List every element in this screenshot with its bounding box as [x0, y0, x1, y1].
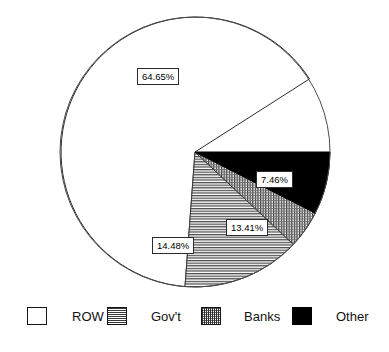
- legend-swatch-banks-icon: [201, 307, 221, 325]
- slice-value-label-row: 64.65%: [137, 68, 179, 85]
- chart-plot-area: 64.65% 7.46% 13.41% 14.48%: [0, 0, 389, 300]
- legend-entry-banks: Banks: [201, 303, 280, 329]
- legend-label-other: Other: [336, 309, 369, 324]
- legend-entry-other: Other: [292, 303, 369, 329]
- pie-svg: [0, 0, 389, 300]
- legend-label-govt: Gov't: [151, 309, 181, 324]
- slice-value-label-govt: 14.48%: [152, 237, 194, 254]
- legend-label-banks: Banks: [244, 309, 280, 324]
- chart-legend: ROW Gov't Banks Other: [0, 303, 389, 337]
- legend-label-row: ROW: [72, 309, 104, 324]
- legend-entry-row: ROW: [27, 303, 104, 329]
- legend-swatch-govt-icon: [107, 307, 127, 325]
- legend-swatch-other-icon: [292, 307, 312, 325]
- pie-chart-figure: pp: [0, 0, 389, 352]
- legend-swatch-row-icon: [27, 307, 47, 325]
- legend-entry-govt: Gov't: [107, 303, 181, 329]
- slice-value-label-banks: 13.41%: [226, 219, 268, 236]
- slice-value-label-other: 7.46%: [256, 171, 293, 188]
